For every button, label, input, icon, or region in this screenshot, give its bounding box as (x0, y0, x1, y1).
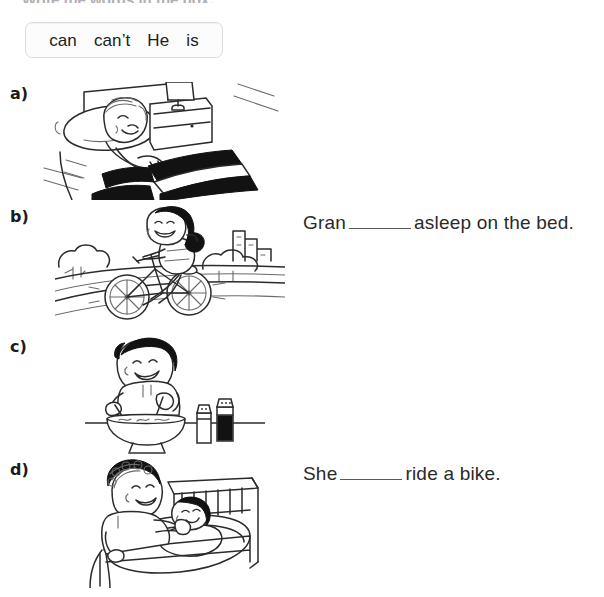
item-label-a: a) (10, 84, 28, 103)
illustration-gran-asleep-in-bed (42, 82, 282, 200)
item-label-b: b) (10, 207, 29, 226)
word-bank-item-can[interactable]: can (49, 32, 77, 49)
exercise-item-b: b) (0, 205, 604, 325)
item-label-d: d) (10, 460, 29, 479)
exercise-item-d: d) (0, 458, 604, 595)
instruction-line: Write the words in the box. (22, 0, 282, 3)
word-bank-item-is[interactable]: is (186, 32, 198, 49)
illustration-mother-with-baby-in-cot (60, 458, 280, 588)
illustration-girl-riding-bicycle (55, 205, 285, 323)
item-label-c: c) (10, 337, 27, 356)
exercise-item-c: c) (0, 335, 604, 460)
word-bank: can can’t He is (25, 22, 223, 58)
word-bank-item-cant[interactable]: can’t (94, 32, 130, 49)
exercise-item-a: a) (0, 82, 604, 202)
instruction-text: Write the words in the box. (22, 0, 213, 3)
word-bank-item-he[interactable]: He (147, 32, 169, 49)
illustration-boy-cooking-supper (85, 335, 265, 457)
